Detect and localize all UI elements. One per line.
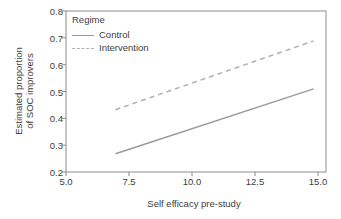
legend-item-label: Control bbox=[99, 29, 130, 40]
legend-item-control: Control bbox=[72, 28, 149, 41]
chart-figure: Estimated proportion of SOC improvers 0.… bbox=[0, 0, 341, 219]
legend-swatch-dashed-line-icon bbox=[72, 43, 94, 53]
x-tick-marks bbox=[66, 172, 318, 176]
legend-swatch-solid-line-icon bbox=[72, 30, 94, 40]
legend: Regime Control Intervention bbox=[72, 14, 149, 54]
y-tick-marks bbox=[62, 11, 66, 172]
plot-area bbox=[0, 0, 341, 219]
legend-item-label: Intervention bbox=[99, 42, 149, 53]
legend-item-intervention: Intervention bbox=[72, 41, 149, 54]
legend-title: Regime bbox=[72, 14, 149, 25]
